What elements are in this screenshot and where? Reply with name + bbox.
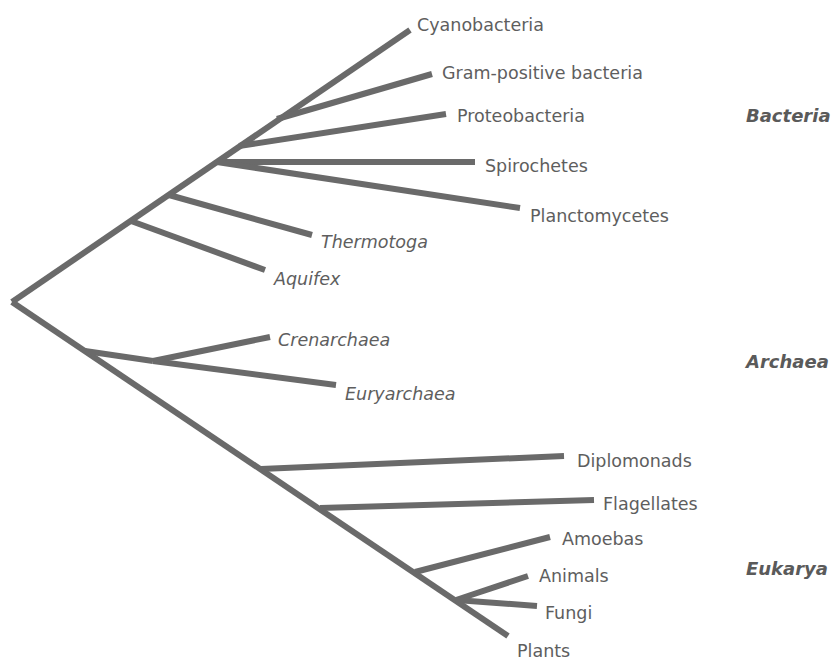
branch-fungi: [456, 600, 537, 606]
phylogenetic-tree: CyanobacteriaGram-positive bacteriaProte…: [0, 0, 839, 664]
branch-gram-positive: [277, 74, 432, 119]
leaf-label-gram-positive-bacteria: Gram-positive bacteria: [442, 63, 643, 83]
branch-flagellates: [320, 500, 594, 508]
branch-proteobacteria: [239, 114, 446, 146]
leaf-label-diplomonads: Diplomonads: [577, 451, 692, 471]
leaf-labels: CyanobacteriaGram-positive bacteriaProte…: [273, 15, 698, 661]
domain-label-eukarya: Eukarya: [746, 558, 828, 579]
leaf-label-aquifex: Aquifex: [273, 269, 341, 289]
branch-animals: [456, 576, 528, 600]
leaf-label-cyanobacteria: Cyanobacteria: [417, 15, 544, 35]
branch-euryarchaea: [153, 361, 336, 385]
leaf-label-flagellates: Flagellates: [603, 494, 698, 514]
leaf-label-fungi: Fungi: [545, 603, 592, 623]
branch-planctomycetes: [217, 162, 520, 208]
branch-diplomonads: [261, 456, 564, 469]
domain-label-archaea: Archaea: [744, 351, 829, 372]
leaf-label-amoebas: Amoebas: [562, 529, 643, 549]
leaf-label-euryarchaea: Euryarchaea: [345, 384, 456, 404]
domain-labels: BacteriaArchaeaEukarya: [744, 105, 831, 579]
branch-aquifex: [131, 221, 265, 270]
leaf-label-animals: Animals: [539, 566, 609, 586]
leaf-label-thermotoga: Thermotoga: [321, 232, 428, 252]
leaf-label-plants: Plants: [517, 641, 570, 661]
branch-crenarchaea: [153, 337, 270, 361]
domain-label-bacteria: Bacteria: [746, 105, 831, 126]
leaf-label-planctomycetes: Planctomycetes: [530, 206, 669, 226]
leaf-label-crenarchaea: Crenarchaea: [278, 330, 390, 350]
leaf-label-spirochetes: Spirochetes: [485, 156, 588, 176]
leaf-label-proteobacteria: Proteobacteria: [457, 106, 585, 126]
branch-root-to-bacteria: [12, 30, 410, 302]
branch-thermotoga: [169, 195, 312, 235]
branch-amoebas: [415, 537, 550, 572]
